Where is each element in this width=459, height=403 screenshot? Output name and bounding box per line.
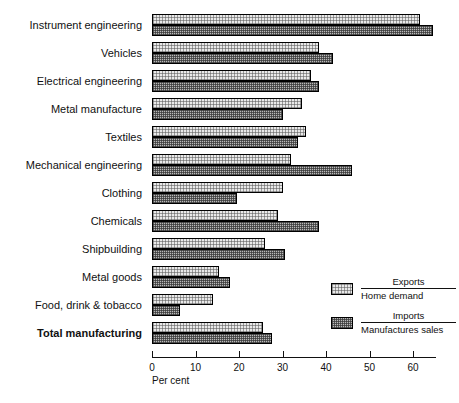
- axis-tick-label: 20: [233, 362, 244, 373]
- bar-light: [152, 42, 319, 53]
- bar-light: [152, 154, 291, 165]
- bar-light: [152, 238, 265, 249]
- category-label: Mechanical engineering: [0, 159, 142, 171]
- bar-light: [152, 322, 263, 333]
- bar-dark: [152, 109, 283, 120]
- axis-tick: [413, 351, 414, 357]
- category-label: Total manufacturing: [0, 327, 142, 339]
- axis-tick: [239, 351, 240, 357]
- bar-group: [152, 210, 455, 238]
- bar-group: [152, 42, 455, 70]
- axis-tick: [196, 351, 197, 357]
- bar-dark: [152, 193, 237, 204]
- category-label: Metal goods: [0, 271, 142, 283]
- category-label: Instrument engineering: [0, 19, 142, 31]
- bar-light: [152, 126, 306, 137]
- category-label: Chemicals: [0, 215, 142, 227]
- bar-light: [152, 98, 302, 109]
- axis-tick: [152, 351, 153, 357]
- value-axis-title: Per cent: [152, 375, 189, 386]
- legend-item-imports: Imports Manufactures sales: [331, 310, 451, 340]
- legend-swatch-dark-icon: [331, 317, 353, 329]
- axis-tick-label: 10: [190, 362, 201, 373]
- bar-group: [152, 14, 455, 42]
- bar-dark: [152, 165, 352, 176]
- bar-light: [152, 266, 219, 277]
- bar-dark: [152, 333, 272, 344]
- bar-light: [152, 70, 311, 81]
- axis-tick-label: 40: [320, 362, 331, 373]
- bar-group: [152, 154, 455, 182]
- legend-denominator: Manufactures sales: [361, 323, 456, 336]
- category-label: Shipbuilding: [0, 243, 142, 255]
- legend-numerator: Imports: [361, 310, 456, 323]
- axis-tick: [326, 351, 327, 357]
- bar-group: [152, 98, 455, 126]
- bar-chart: Instrument engineeringVehiclesElectrical…: [0, 0, 459, 403]
- bar-dark: [152, 305, 180, 316]
- bar-group: [152, 70, 455, 98]
- bar-dark: [152, 277, 230, 288]
- axis-tick-label: 30: [277, 362, 288, 373]
- bar-dark: [152, 81, 319, 92]
- legend-numerator: Exports: [361, 276, 456, 289]
- axis-tick-label: 50: [364, 362, 375, 373]
- bar-group: [152, 182, 455, 210]
- bar-light: [152, 182, 283, 193]
- bar-dark: [152, 53, 333, 64]
- category-label: Electrical engineering: [0, 75, 142, 87]
- category-label: Clothing: [0, 187, 142, 199]
- value-axis-line: [152, 357, 436, 358]
- bar-group: [152, 238, 455, 266]
- category-label: Vehicles: [0, 47, 142, 59]
- legend-swatch-light-icon: [331, 283, 353, 295]
- bar-group: [152, 126, 455, 154]
- bar-dark: [152, 249, 285, 260]
- bar-dark: [152, 137, 298, 148]
- legend-label-imports: Imports Manufactures sales: [361, 310, 456, 336]
- legend-item-exports: Exports Home demand: [331, 276, 451, 306]
- axis-tick-label: 0: [149, 362, 155, 373]
- legend-label-exports: Exports Home demand: [361, 276, 456, 302]
- axis-tick: [370, 351, 371, 357]
- axis-tick-label: 60: [407, 362, 418, 373]
- legend-denominator: Home demand: [361, 289, 456, 302]
- category-label: Textiles: [0, 131, 142, 143]
- bar-light: [152, 210, 278, 221]
- category-label: Food, drink & tobacco: [0, 299, 142, 311]
- axis-tick: [283, 351, 284, 357]
- category-label: Metal manufacture: [0, 103, 142, 115]
- bar-light: [152, 14, 420, 25]
- bar-light: [152, 294, 213, 305]
- bar-dark: [152, 221, 319, 232]
- bar-dark: [152, 25, 433, 36]
